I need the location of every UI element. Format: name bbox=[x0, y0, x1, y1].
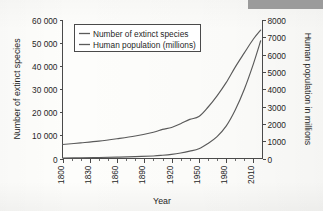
left-tick-label: 10 000 bbox=[32, 131, 58, 141]
right-axis-title: Human population in millions bbox=[303, 33, 313, 146]
right-tick-label: 1000 bbox=[268, 137, 287, 147]
series-line-extinct-species bbox=[63, 41, 261, 158]
x-tick-label: 1830 bbox=[83, 165, 93, 184]
x-tick-label: 1950 bbox=[192, 165, 202, 184]
right-tick-label: 5000 bbox=[268, 68, 287, 78]
left-tick-label: 30 000 bbox=[32, 85, 58, 95]
x-tick-label: 1920 bbox=[165, 165, 175, 184]
right-tick-label: 4000 bbox=[268, 85, 287, 95]
left-tick-label: 0 bbox=[53, 155, 58, 165]
legend-label-human-population: Human population (millions) bbox=[93, 40, 196, 50]
x-tick-label: 1860 bbox=[110, 165, 120, 184]
chart-legend: Number of extinct species Human populati… bbox=[75, 25, 201, 52]
right-tick-label: 2000 bbox=[268, 120, 287, 130]
x-axis-tick-labels: 18001830186018901920195019802010 bbox=[56, 165, 256, 184]
right-tick-label: 3000 bbox=[268, 103, 287, 113]
legend-label-extinct-species: Number of extinct species bbox=[93, 29, 188, 39]
chart-page: 010 00020 00030 00040 00050 00060 000 01… bbox=[0, 0, 323, 211]
extinct-species-vs-population-chart: 010 00020 00030 00040 00050 00060 000 01… bbox=[0, 0, 323, 211]
right-tick-label: 6000 bbox=[268, 51, 287, 61]
left-tick-label: 60 000 bbox=[32, 16, 58, 26]
left-axis-tick-labels: 010 00020 00030 00040 00050 00060 000 bbox=[32, 16, 58, 165]
x-axis-title: Year bbox=[153, 196, 171, 206]
x-tick-label: 2010 bbox=[246, 165, 256, 184]
x-tick-label: 1800 bbox=[56, 165, 66, 184]
right-tick-label: 8000 bbox=[268, 16, 287, 26]
right-axis-tick-labels: 010002000300040005000600070008000 bbox=[268, 16, 287, 165]
x-tick-label: 1890 bbox=[137, 165, 147, 184]
right-tick-label: 7000 bbox=[268, 33, 287, 43]
left-tick-label: 20 000 bbox=[32, 108, 58, 118]
x-axis-major-ticks bbox=[64, 159, 254, 163]
x-tick-label: 1980 bbox=[219, 165, 229, 184]
left-tick-label: 50 000 bbox=[32, 39, 58, 49]
right-tick-label: 0 bbox=[268, 155, 273, 165]
left-axis-title: Number of extinct species bbox=[12, 38, 22, 140]
left-tick-label: 40 000 bbox=[32, 62, 58, 72]
